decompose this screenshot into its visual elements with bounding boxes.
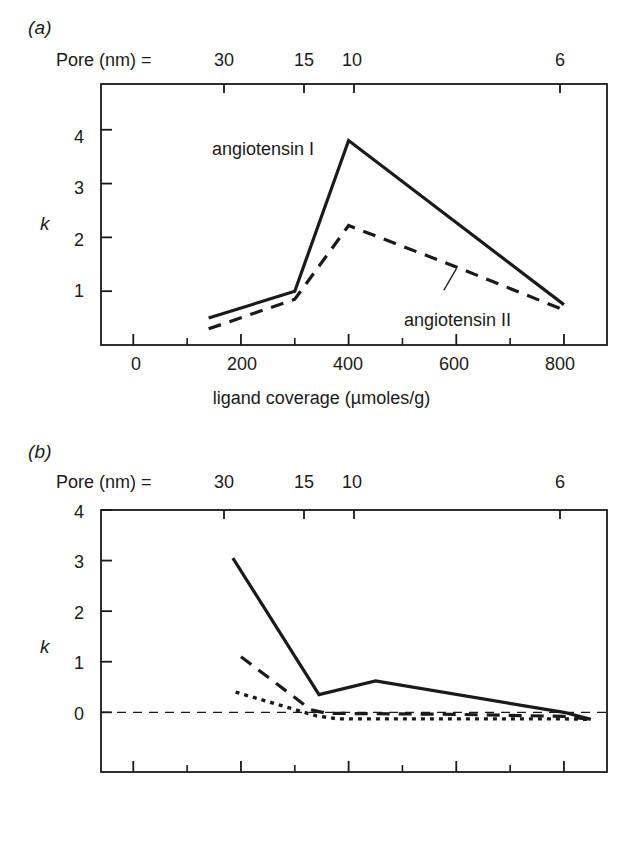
panel-b-plot: [0, 430, 643, 855]
series-line-angiotensin-i: [209, 141, 564, 319]
panel-b: (b) Pore (nm) = 30 15 10 6 4 3 2 1 0 k 0…: [0, 430, 643, 855]
plot-frame: [101, 510, 607, 772]
panel-a-plot: [0, 0, 643, 430]
series-line-angiotensin-ii: [209, 226, 564, 329]
series-line-myoglobin: [233, 558, 591, 719]
panel-a: (a) Pore (nm) = 30 15 10 6 4 3 2 1 k 0 2…: [0, 0, 643, 430]
figure-container: (a) Pore (nm) = 30 15 10 6 4 3 2 1 k 0 2…: [0, 0, 643, 855]
plot-frame: [101, 84, 607, 345]
annotation-leader-line: [444, 269, 456, 290]
